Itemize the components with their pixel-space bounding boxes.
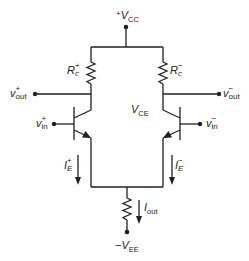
vin-minus-label: v−in xyxy=(206,118,222,129)
vout-minus-sub: out xyxy=(229,93,240,101)
vcc-terminal-dot xyxy=(124,25,129,30)
q-right-collector xyxy=(163,110,180,118)
iout-arrow-icon xyxy=(136,216,142,224)
vin-plus-terminal-dot xyxy=(52,122,56,126)
resistor-rc-minus-icon xyxy=(159,62,167,84)
vcc-label: +VCC xyxy=(116,10,139,21)
ie-minus-sub: E xyxy=(178,165,183,173)
ie-minus-label: I−E xyxy=(175,160,186,171)
ie-plus-arrow-icon xyxy=(75,177,81,185)
rc-plus-label: R+c xyxy=(67,65,83,76)
rc-minus-symbol: R xyxy=(170,64,178,76)
vin-minus-sub: in xyxy=(212,123,218,131)
vce-subscript: CE xyxy=(138,109,148,118)
vout-plus-terminal-dot xyxy=(33,92,37,96)
ie-minus-arrow-icon xyxy=(169,177,175,185)
resistor-rc-plus-icon xyxy=(87,62,95,84)
rc-minus-sub: c xyxy=(178,70,182,78)
vin-minus-terminal-dot xyxy=(198,122,202,126)
resistor-tail-icon xyxy=(123,198,131,220)
vout-minus-label: v−out xyxy=(223,88,245,99)
ie-plus-label: I+E xyxy=(64,160,75,171)
vee-label: −VEE xyxy=(115,240,139,251)
iout-subscript: out xyxy=(147,207,157,216)
vout-minus-terminal-dot xyxy=(217,92,221,96)
vce-label: VCE xyxy=(131,104,149,115)
vcc-sign: + xyxy=(116,9,121,18)
vcc-symbol: V xyxy=(121,9,128,21)
vee-symbol: V xyxy=(121,239,128,251)
vcc-subscript: CC xyxy=(128,15,139,24)
vout-plus-label: v+out xyxy=(10,88,32,99)
iout-label: Iout xyxy=(144,202,158,213)
rc-plus-sub: c xyxy=(75,70,79,78)
rc-plus-symbol: R xyxy=(67,64,75,76)
vee-terminal-dot xyxy=(125,230,130,235)
ie-plus-sub: E xyxy=(67,165,72,173)
vin-plus-sub: in xyxy=(42,123,48,131)
vee-subscript: EE xyxy=(129,245,139,254)
vout-plus-sub: out xyxy=(16,93,27,101)
rc-minus-label: R−c xyxy=(170,65,186,76)
vin-plus-label: v+in xyxy=(36,118,52,129)
q-left-collector xyxy=(74,110,91,118)
